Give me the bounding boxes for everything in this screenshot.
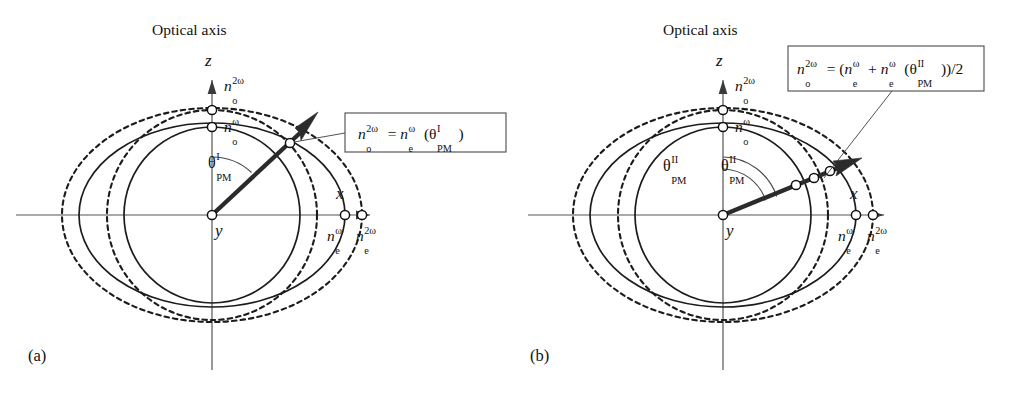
- panel-a-node-ne-omega: [340, 210, 349, 219]
- panel-b-node-no-2omega: [718, 105, 727, 114]
- panel-b-origin-label: y: [726, 222, 734, 239]
- panel-b: [528, 46, 984, 370]
- panel-b-equation-leader: [824, 91, 892, 178]
- panel-a-label-ne-omega: nωe: [327, 228, 347, 244]
- panel-b-label-no-omega: nωo: [735, 119, 755, 135]
- panel-a-node-ne-2omega: [357, 210, 366, 219]
- panel-b-label-ne-2omega: n2ωe: [867, 228, 891, 244]
- panel-a-z-axis-label: z: [205, 52, 212, 69]
- panel-a-node-no-2omega: [207, 105, 216, 114]
- panel-b-x-axis-label: x: [850, 185, 858, 202]
- panel-b-intersection-node-2: [809, 173, 818, 182]
- panel-a-origin-label: y: [215, 222, 223, 239]
- panel-b-intersection-node-1: [791, 180, 800, 189]
- figure-canvas: Optical axis z x y n2ωo nωo nωe n2ωe θIP…: [0, 0, 1025, 400]
- panel-b-title: Optical axis: [663, 22, 737, 38]
- panel-a-node-no-omega: [207, 122, 216, 131]
- panel-a-label: (a): [28, 348, 46, 365]
- panel-a-origin-node: [207, 210, 216, 219]
- panel-a-title: Optical axis: [152, 22, 226, 38]
- panel-a-label-no-omega: nωo: [224, 119, 244, 135]
- panel-a-x-axis-label: x: [336, 185, 344, 202]
- panel-a: [16, 80, 506, 370]
- panel-b-label: (b): [530, 348, 549, 365]
- panel-a-intersection-node: [285, 138, 294, 147]
- panel-b-origin-node: [718, 210, 727, 219]
- panel-b-node-no-omega: [718, 122, 727, 131]
- panel-b-z-axis-label: z: [716, 52, 723, 69]
- panel-b-label-ne-omega: nωe: [838, 228, 858, 244]
- panel-b-equation-text: n2ωo = (nωe + nωe (θIIPM))/2: [797, 61, 963, 77]
- panel-a-angle-label: θIPM: [208, 155, 238, 171]
- panel-b-z-axis-arrowhead: [719, 80, 728, 94]
- panel-b-label-no-2omega: n2ωo: [735, 78, 759, 94]
- panel-b-angle-label-right: θIIPM: [721, 158, 753, 174]
- panel-b-angle-label-left: θIIPM: [663, 158, 695, 174]
- panel-a-equation-text: n2ωo = nωe (θIPM): [358, 126, 464, 142]
- panel-a-label-ne-2omega: n2ωe: [356, 228, 380, 244]
- panel-a-z-axis-arrowhead: [208, 80, 217, 94]
- panel-b-node-ne-2omega: [868, 210, 877, 219]
- panel-b-node-ne-omega: [851, 210, 860, 219]
- panel-a-label-no-2omega: n2ωo: [224, 78, 248, 94]
